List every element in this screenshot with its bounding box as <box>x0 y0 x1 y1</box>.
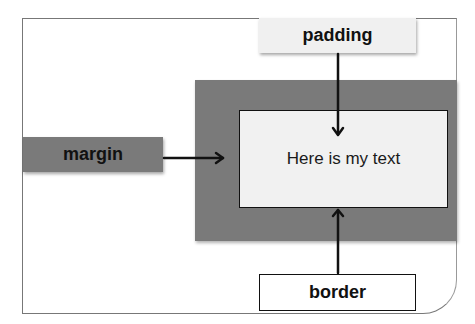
arrow-right-icon <box>164 153 223 163</box>
arrows-layer <box>0 0 475 324</box>
arrow-up-icon <box>333 210 343 273</box>
arrow-down-icon <box>333 54 343 135</box>
